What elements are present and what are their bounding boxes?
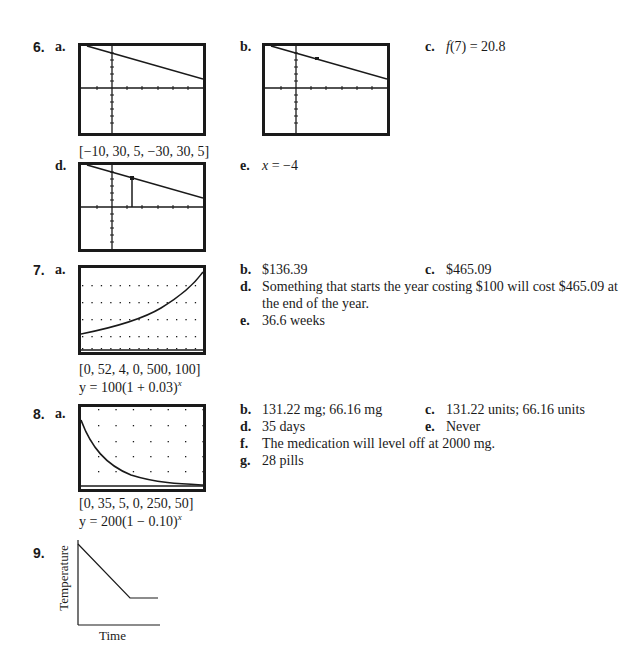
equation-exponent: x — [178, 512, 182, 522]
problem-7a-label: a. — [55, 262, 66, 278]
graph-6b — [262, 43, 390, 136]
problem-8d-answer: 35 days — [262, 419, 305, 435]
problem-6c-value: (7) = 20.8 — [450, 39, 506, 54]
problem-6e-value: = −4 — [268, 158, 298, 173]
equation-exponent: x — [178, 378, 182, 388]
problem-8e-label: e. — [425, 419, 435, 435]
problem-6-number: 6. — [33, 39, 45, 55]
sketch-9-xlabel: Time — [99, 628, 126, 644]
graph-8a-equation: y = 200(1 − 0.10)x — [79, 512, 182, 530]
problem-8f-answer: The medication will level off at 2000 mg… — [262, 436, 495, 452]
equation-base: y = 100(1 + 0.03) — [79, 380, 178, 395]
problem-6c-answer: f(7) = 20.8 — [446, 39, 506, 55]
problem-7e-label: e. — [240, 313, 250, 329]
problem-8e-answer: Never — [446, 419, 480, 435]
graph-6a — [78, 43, 206, 136]
problem-6e-label: e. — [240, 158, 250, 174]
problem-7e-answer: 36.6 weeks — [262, 313, 325, 329]
problem-8c-label: c. — [425, 402, 435, 418]
graph-7a — [78, 265, 206, 355]
graph-8a — [78, 404, 206, 492]
problem-8g-label: g. — [240, 453, 251, 469]
problem-6d-label: d. — [55, 158, 66, 174]
problem-9-number: 9. — [33, 545, 45, 561]
problem-8c-answer: 131.22 units; 66.16 units — [446, 402, 585, 418]
problem-7c-label: c. — [425, 262, 435, 278]
problem-6c-label: c. — [425, 39, 435, 55]
graph-6d — [78, 162, 206, 252]
graph-8a-window: [0, 35, 5, 0, 250, 50] — [79, 496, 193, 512]
problem-7-number: 7. — [33, 262, 45, 278]
graph-7a-equation: y = 100(1 + 0.03)x — [79, 378, 182, 396]
trace-cursor-icon — [130, 176, 134, 180]
problem-8a-label: a. — [55, 406, 66, 422]
graph-6a-window: [−10, 30, 5, −30, 30, 5] — [79, 144, 209, 160]
problem-7c-answer: $465.09 — [446, 262, 492, 278]
problem-7d-answer-line2: the end of the year. — [262, 296, 369, 312]
problem-7d-label: d. — [240, 279, 251, 295]
problem-7b-label: b. — [240, 262, 251, 278]
graph-7a-window: [0, 52, 4, 0, 500, 100] — [79, 362, 200, 378]
sketch-9-ylabel: Temperature — [56, 528, 72, 628]
equation-base: y = 200(1 − 0.10) — [79, 514, 178, 529]
problem-6a-label: a. — [55, 39, 66, 55]
trace-cursor-icon — [315, 57, 319, 60]
problem-8b-label: b. — [240, 402, 251, 418]
problem-8f-label: f. — [240, 436, 248, 452]
problem-8g-answer: 28 pills — [262, 453, 304, 469]
problem-8-number: 8. — [33, 406, 45, 422]
problem-6e-answer: x = −4 — [262, 158, 298, 174]
problem-8d-label: d. — [240, 419, 251, 435]
problem-8b-answer: 131.22 mg; 66.16 mg — [262, 402, 382, 418]
problem-7b-answer: $136.39 — [262, 262, 308, 278]
sketch-9: Temperature Time — [56, 538, 166, 648]
problem-6b-label: b. — [240, 39, 251, 55]
problem-7d-answer-line1: Something that starts the year costing $… — [262, 279, 618, 295]
